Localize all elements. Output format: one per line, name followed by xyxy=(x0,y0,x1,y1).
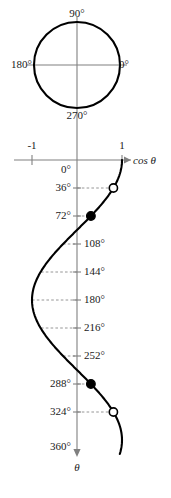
theta-axis-label: θ xyxy=(62,462,92,473)
theta-tick-label-36: 36° xyxy=(34,182,71,193)
circle-label-0: 0° xyxy=(119,59,129,70)
figure-canvas xyxy=(0,0,171,498)
theta-axis-arrowhead xyxy=(73,449,80,457)
marker-filled-288 xyxy=(87,380,96,389)
theta-tick-label-288: 288° xyxy=(28,378,71,389)
circle-label-90: 90° xyxy=(57,8,97,19)
marker-open-324 xyxy=(109,408,117,416)
cos-axis-arrowhead xyxy=(124,157,131,164)
theta-tick-label-360: 360° xyxy=(28,441,71,452)
theta-tick-label-180: 180° xyxy=(84,294,105,305)
marker-filled-72 xyxy=(87,212,96,221)
theta-tick-label-324: 324° xyxy=(28,406,71,417)
cos-tick-label-minus-one: -1 xyxy=(20,140,44,151)
circle-label-180: 180° xyxy=(0,59,32,70)
theta-tick-label-216: 216° xyxy=(84,322,105,333)
cosine-unit-circle-figure: 90° 0° 180° 270° -1 1 cos θ 0° 36° 72° 1… xyxy=(0,0,171,498)
marker-open-36 xyxy=(109,184,117,192)
circle-label-270: 270° xyxy=(57,110,97,121)
theta-tick-label-72: 72° xyxy=(34,210,71,221)
cos-axis-group xyxy=(14,155,131,165)
theta-tick-label-0: 0° xyxy=(38,164,71,175)
cos-axis-label: cos θ xyxy=(133,155,156,166)
unit-circle-group xyxy=(27,17,127,160)
theta-tick-label-252: 252° xyxy=(84,350,105,361)
theta-tick-label-144: 144° xyxy=(84,266,105,277)
cos-tick-label-one: 1 xyxy=(112,140,132,151)
theta-tick-label-108: 108° xyxy=(84,238,105,249)
